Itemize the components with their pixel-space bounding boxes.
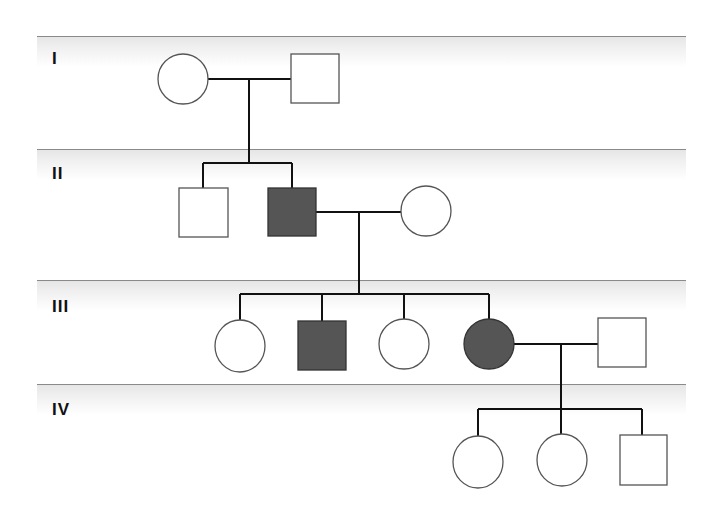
individual-iv-3-male-unaffected <box>620 435 667 485</box>
individual-i-2-male-unaffected <box>291 54 339 103</box>
individual-i-1-female-unaffected <box>158 54 208 104</box>
pedigree-chart <box>0 0 715 516</box>
individual-iii-1-female-unaffected <box>215 320 265 372</box>
pedigree-lines <box>203 79 642 437</box>
individual-ii-1-male-unaffected <box>179 188 228 237</box>
individual-iii-2-male-affected <box>298 321 346 370</box>
individual-iii-4-female-affected <box>464 319 514 369</box>
individual-iv-2-female-unaffected <box>537 434 587 486</box>
individual-iv-1-female-unaffected <box>453 436 503 488</box>
individual-iii-5-male-unaffected <box>598 318 646 367</box>
individual-ii-3-female-unaffected <box>401 186 451 236</box>
individual-ii-2-male-affected <box>268 188 316 236</box>
individual-iii-3-female-unaffected <box>379 319 429 369</box>
